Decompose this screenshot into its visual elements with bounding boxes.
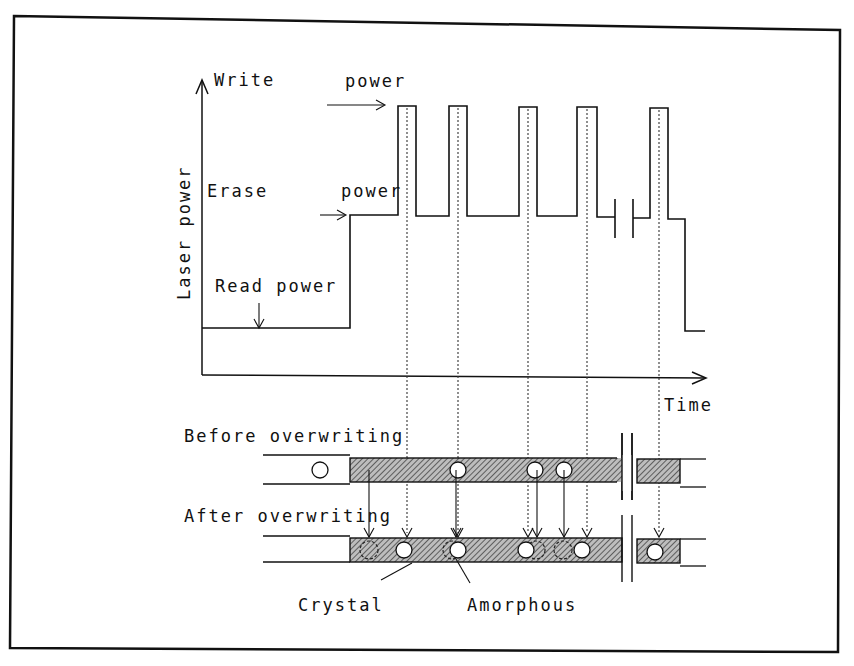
diagram-canvas: Laser power Time Write power Erase power… [0,0,854,666]
y-axis-label: Laser power [174,165,194,300]
erase-power-label-1: Erase [207,181,268,201]
x-axis-label: Time [664,395,713,415]
after-overwriting-label: After overwriting [184,506,392,526]
amorphous-mark [450,462,466,478]
amorphous-mark [450,542,466,558]
amorphous-mark [396,542,412,558]
power-waveform [202,106,705,331]
write-power-label-2: power [345,71,406,91]
axes [196,80,706,384]
write-power-label-1: Write [214,70,275,90]
x-axis [202,375,705,378]
amorphous-mark [518,542,534,558]
amorphous-mark [527,462,543,478]
crystal-pointer [381,563,412,580]
erase-power-label-2: power [341,181,402,201]
amorphous-mark [647,544,663,560]
amorphous-mark [312,462,328,478]
before-overwriting-label: Before overwriting [184,426,404,446]
read-power-label: Read power [215,276,337,296]
amorphous-label: Amorphous [467,595,577,615]
crystal-label: Crystal [298,595,384,615]
amorphous-mark [574,542,590,558]
